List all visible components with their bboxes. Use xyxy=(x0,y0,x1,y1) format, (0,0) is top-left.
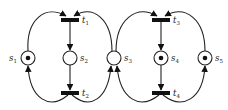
place-s3[interactable] xyxy=(107,51,121,65)
transition-t2[interactable] xyxy=(61,91,79,95)
arc-t4-s3 xyxy=(117,66,159,102)
token-icon xyxy=(159,56,164,61)
arc-s3-t1 xyxy=(74,12,112,51)
place-s2[interactable] xyxy=(63,51,77,65)
label-t1: t1 xyxy=(82,15,89,26)
arc-s5-t3 xyxy=(165,12,205,51)
label-t3: t3 xyxy=(173,15,180,26)
arc-s3-t3 xyxy=(116,12,157,51)
transition-t3[interactable] xyxy=(152,18,170,22)
arc-t4-s5 xyxy=(163,66,205,102)
label-s3: s3 xyxy=(124,53,132,64)
label-s4: s4 xyxy=(171,53,179,64)
token-icon xyxy=(203,56,208,61)
petri-net-diagram: s1 s2 s3 s4 s5 t1 t2 t3 t4 xyxy=(0,0,228,110)
label-s5: s5 xyxy=(215,53,223,64)
label-t4: t4 xyxy=(173,88,180,99)
arc-s1-t1 xyxy=(28,12,66,51)
label-s2: s2 xyxy=(80,53,88,64)
transition-t1[interactable] xyxy=(61,18,79,22)
label-t2: t2 xyxy=(82,88,89,99)
places xyxy=(21,51,212,65)
label-s1: s1 xyxy=(9,53,17,64)
token-icon xyxy=(26,56,31,61)
arc-t2-s1 xyxy=(28,66,68,102)
transition-t4[interactable] xyxy=(152,91,170,95)
arc-t2-s3 xyxy=(72,66,111,102)
